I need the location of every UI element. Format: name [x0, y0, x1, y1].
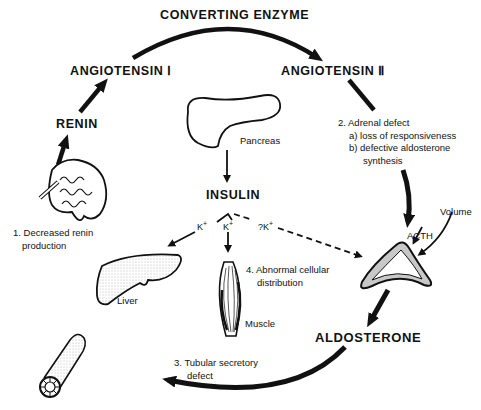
- defect-2-text: 2. Adrenal defect a) loss of responsiven…: [338, 117, 456, 167]
- acth-label: ACTH: [407, 230, 433, 243]
- liver-label: Liver: [117, 295, 138, 308]
- adrenal-to-aldosterone-arrow: [370, 290, 388, 322]
- volume-label: Volume: [440, 206, 472, 219]
- angiotensin2-to-adrenal-line: [349, 80, 374, 110]
- muscle-icon: [219, 262, 240, 336]
- defect-4-text: 4. Abnormal cellular distribution: [246, 264, 329, 289]
- k-muscle-label: K+: [223, 220, 233, 232]
- aldosterone-label: ALDOSTERONE: [315, 330, 421, 345]
- to-adrenal-arrow: [403, 170, 409, 222]
- muscle-label: Muscle: [245, 318, 275, 331]
- defect-3-text: 3. Tubular secretory defect: [174, 357, 258, 382]
- adrenal-gland-icon: [361, 242, 431, 288]
- kidney-icon: [40, 160, 106, 220]
- renin-label: RENIN: [56, 117, 98, 131]
- converting-enzyme-arrow: [133, 29, 318, 58]
- k-adrenal-label: ?K+: [258, 220, 273, 232]
- angiotensin-1-label: ANGIOTENSIN Ⅰ: [70, 63, 172, 78]
- pancreas-label: Pancreas: [240, 135, 280, 148]
- renin-to-angiotensin1-arrow: [80, 83, 104, 112]
- angiotensin-2-label: ANGIOTENSIN Ⅱ: [281, 63, 385, 78]
- renin-angiotensin-insulin-diagram: CONVERTING ENZYME ANGIOTENSIN Ⅰ ANGIOTEN…: [0, 0, 481, 410]
- insulin-to-liver-arrow: [170, 232, 195, 245]
- converting-enzyme-label: CONVERTING ENZYME: [160, 8, 309, 22]
- defect-1-text: 1. Decreased renin production: [13, 227, 93, 252]
- insulin-label: INSULIN: [206, 188, 260, 202]
- k-liver-label: K+: [197, 220, 207, 232]
- insulin-to-adrenal-dashed-arrow: [234, 214, 360, 256]
- liver-icon: [97, 254, 181, 304]
- tubule-icon: [40, 334, 85, 397]
